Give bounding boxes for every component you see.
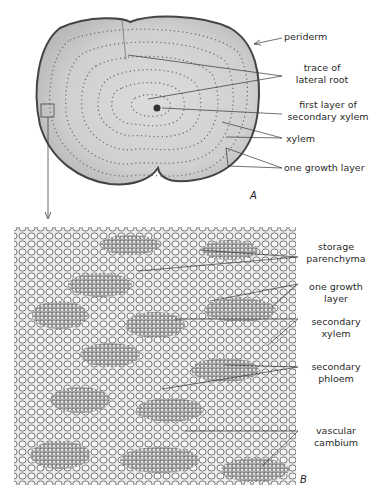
label-xylem: xylem (286, 133, 315, 145)
label-line: storage (318, 241, 354, 252)
label-secondary-phloem: secondary phloem (298, 361, 374, 384)
label-line: cambium (314, 437, 358, 448)
label-secondary-xylem: secondary xylem (298, 316, 374, 339)
label-line: parenchyma (306, 253, 365, 264)
label-trace-lateral-root: trace of lateral root (282, 62, 362, 85)
label-line: lateral root (296, 74, 348, 85)
label-line: secondary (311, 361, 360, 372)
label-storage-parenchyma: storage parenchyma (298, 241, 374, 264)
label-line: xylem (322, 328, 351, 339)
label-periderm: periderm (284, 31, 327, 43)
label-one-growth-layer-b: one growth layer (298, 281, 374, 304)
label-line: phloem (318, 373, 354, 384)
label-line: secondary (311, 316, 360, 327)
label-vascular-cambium: vascular cambium (298, 425, 374, 448)
panel-letter-b: B (300, 474, 307, 485)
label-line: vascular (316, 425, 356, 436)
panel-letter-a: A (250, 190, 257, 201)
label-line: secondary xylem (287, 111, 368, 122)
figure: periderm trace of lateral root first lay… (0, 0, 376, 496)
label-one-growth-layer: one growth layer (284, 162, 365, 174)
label-line: one growth (309, 281, 363, 292)
panel-a-root-section (37, 17, 259, 219)
label-first-layer-secondary-xylem: first layer of secondary xylem (282, 99, 374, 122)
label-line: layer (324, 293, 348, 304)
label-line: trace of (304, 62, 341, 73)
panel-b-micrograph (14, 227, 296, 485)
label-line: first layer of (299, 99, 357, 110)
